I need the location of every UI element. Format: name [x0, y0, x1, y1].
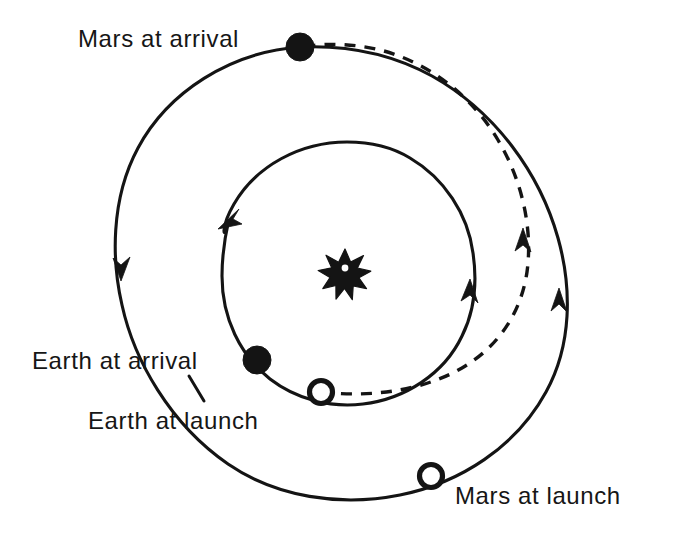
sun-icon [318, 249, 371, 300]
marker-earth-at-launch [310, 381, 333, 404]
marker-mars-at-launch [420, 465, 443, 488]
label-mars-at-arrival: Mars at arrival [78, 27, 239, 51]
transfer-orbit-path [308, 44, 529, 394]
orbital-transfer-diagram: Mars at arrival Earth at arrival Earth a… [0, 0, 681, 535]
mars-orbit-arrow-right [551, 288, 567, 312]
label-mars-at-launch: Mars at launch [455, 484, 621, 508]
label-earth-at-launch: Earth at launch [88, 409, 258, 433]
label-earth-at-arrival: Earth at arrival [32, 349, 198, 373]
marker-mars-at-arrival [286, 33, 314, 61]
earth-arrival-leader-line [189, 376, 204, 401]
diagram-canvas [0, 0, 681, 535]
marker-earth-at-arrival [243, 346, 271, 374]
